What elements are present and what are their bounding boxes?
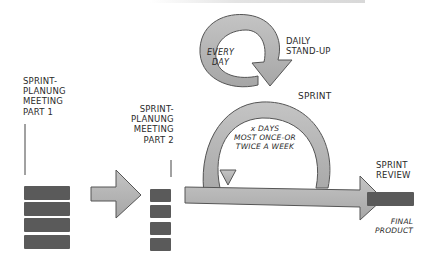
daily-standup-label: DAILY STAND-UP — [286, 36, 331, 56]
planning-part1-label: SPRINT- PLANUNG MEETING PART 1 — [23, 76, 66, 117]
arrow-icon-part1-to-part2 — [91, 170, 141, 218]
sprint-review-label: SPRINT REVIEW — [376, 160, 411, 180]
every-day-label: EVERY DAY — [207, 48, 234, 67]
sprint-loop-label: x DAYS MOST ONCE-OR TWICE A WEEK — [220, 124, 310, 151]
planning-part2-label: SPRINT- PLANUNG MEETING PART 2 — [131, 104, 174, 145]
final-product-block — [367, 192, 414, 206]
final-product-label: FINAL PRODUCT — [375, 217, 413, 235]
sprint-label: SPRINT — [298, 91, 331, 102]
backlog-blocks-part2 — [150, 189, 171, 251]
backlog-blocks-part1 — [24, 186, 70, 249]
sprint-loop-arrow — [185, 102, 383, 220]
